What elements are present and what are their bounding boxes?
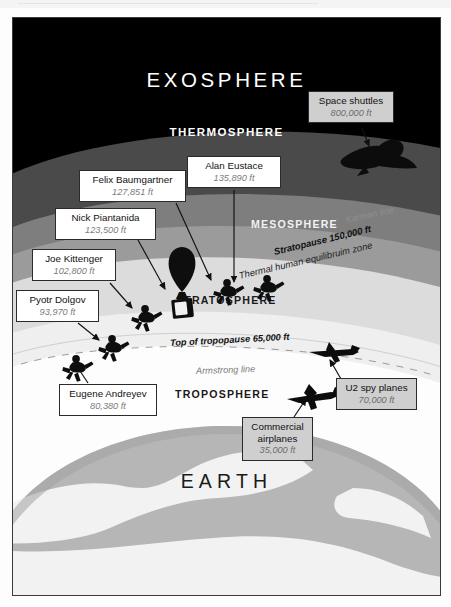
atmosphere-diagram: EXOSPHERE THERMOSPHERE MESOSPHERE STRATO… [13,18,440,595]
callout-altitude: 70,000 ft [343,395,410,406]
callout-name: Joe Kittenger [39,253,109,265]
callout-altitude: 93,970 ft [23,307,92,318]
callout-altitude: 102,800 ft [39,266,109,277]
callout-name: Nick Piantanida [62,212,149,224]
callout-felix-baumgartner[interactable]: Felix Baumgartner 127,851 ft [79,170,186,202]
callout-pyotr-dolgov[interactable]: Pyotr Dolgov 93,970 ft [16,290,99,322]
callout-altitude: 123,500 ft [62,225,149,236]
u2-spy-plane-icon [309,342,360,363]
callout-altitude: 127,851 ft [86,187,179,198]
callout-space-shuttles[interactable]: Space shuttles 800,000 ft [308,91,394,123]
callout-altitude: 35,000 ft [249,445,306,456]
capsule-window-icon [174,301,187,315]
callout-joe-kittenger[interactable]: Joe Kittenger 102,800 ft [32,249,116,281]
callout-name: Alan Eustace [194,160,274,172]
callout-name: Felix Baumgartner [86,174,179,186]
callout-u2-spy-planes[interactable]: U2 spy planes 70,000 ft [336,378,417,410]
page-top-strip [0,0,451,8]
infographic-frame: EXOSPHERE THERMOSPHERE MESOSPHERE STRATO… [12,17,441,596]
callout-name: Space shuttles [315,95,387,107]
callout-altitude: 800,000 ft [315,108,387,119]
callout-alan-eustace[interactable]: Alan Eustace 135,890 ft [187,156,281,188]
callout-name: Commercial airplanes [249,421,306,444]
callout-name: Eugene Andreyev [66,388,150,400]
infographic-poster: EXOSPHERE THERMOSPHERE MESOSPHERE STRATO… [0,0,451,607]
callout-altitude: 135,890 ft [194,173,274,184]
callout-nick-piantanida[interactable]: Nick Piantanida 123,500 ft [55,208,156,240]
callout-eugene-andreyev[interactable]: Eugene Andreyev 80,380 ft [59,384,157,416]
space-shuttle-icon [341,140,417,176]
callout-name: Pyotr Dolgov [23,294,92,306]
callout-altitude: 80,380 ft [66,401,150,412]
callout-name: U2 spy planes [343,382,410,394]
callout-commercial-airplanes[interactable]: Commercial airplanes 35,000 ft [242,417,313,461]
